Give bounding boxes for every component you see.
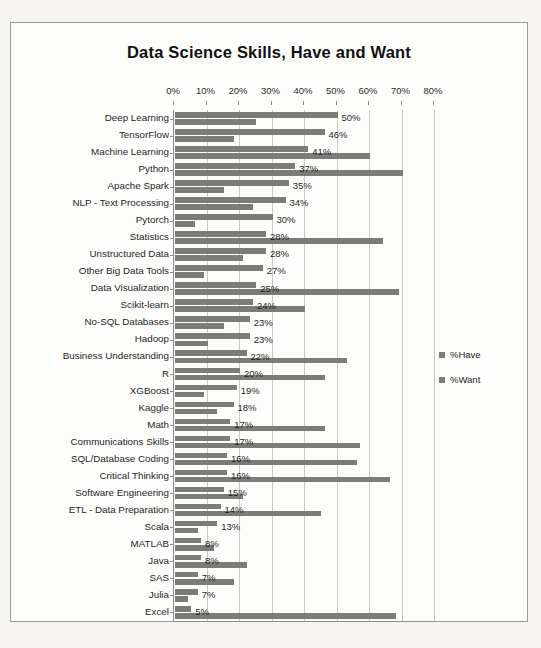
bar-want	[175, 129, 325, 135]
y-axis-tick-mark	[170, 221, 174, 222]
plot-area: Deep Learning50%TensorFlow46%Machine Lea…	[173, 110, 433, 621]
bar-want	[175, 299, 253, 305]
bar-want	[175, 453, 227, 459]
category-label: Machine Learning	[91, 146, 169, 158]
category-label: TensorFlow	[119, 129, 169, 141]
y-axis-tick-mark	[170, 493, 174, 494]
bar-value-label: 19%	[241, 385, 260, 396]
chart-category-row: Scikit-learn24%	[174, 297, 433, 314]
y-axis-tick-mark	[170, 391, 174, 392]
bar-value-label: 7%	[202, 589, 216, 600]
bar-have	[175, 272, 204, 278]
x-axis-tick-labels: 0%10%20%30%40%50%60%70%80%	[173, 85, 433, 101]
bar-have	[175, 170, 403, 176]
category-label: Math	[147, 419, 169, 431]
x-axis-tick-mark	[433, 101, 434, 105]
bar-value-label: 8%	[205, 538, 219, 549]
bar-value-label: 16%	[231, 453, 250, 464]
chart-category-row: SAS7%	[174, 570, 433, 587]
bar-value-label: 17%	[234, 419, 253, 430]
category-label: Critical Thinking	[99, 470, 169, 482]
y-axis-tick-mark	[170, 170, 174, 171]
legend-label: %Want	[450, 374, 480, 385]
legend-swatch-icon	[439, 352, 445, 358]
bar-want	[175, 333, 250, 339]
category-label: SQL/Database Coding	[71, 453, 169, 465]
bar-want	[175, 538, 201, 544]
x-axis-tick-label: 70%	[391, 85, 410, 96]
y-axis-tick-mark	[170, 289, 174, 290]
chart-category-row: Scala13%	[174, 519, 433, 536]
category-label: Kaggle	[138, 402, 169, 414]
chart-category-row: Software Engineering15%	[174, 485, 433, 502]
y-axis-tick-mark	[170, 527, 174, 528]
bar-have	[175, 460, 357, 466]
bar-value-label: 28%	[270, 231, 289, 242]
y-axis-tick-mark	[170, 272, 174, 273]
chart-category-row: Excel5%	[174, 604, 433, 621]
bar-value-label: 8%	[205, 555, 219, 566]
category-label: Unstructured Data	[90, 248, 170, 260]
bar-value-label: 22%	[251, 351, 270, 362]
y-axis-tick-mark	[170, 255, 174, 256]
x-axis-tick-mark	[238, 101, 239, 105]
category-label: Hadoop	[135, 333, 169, 345]
y-axis-tick-mark	[170, 459, 174, 460]
chart-category-row: Machine Learning41%	[174, 144, 433, 161]
bar-have	[175, 306, 305, 312]
bar-want	[175, 350, 247, 356]
x-axis-tick-label: 60%	[358, 85, 377, 96]
y-axis-tick-mark	[170, 153, 174, 154]
category-label: MATLAB	[131, 538, 169, 550]
chart-legend: %Have%Want	[439, 349, 513, 399]
chart-category-row: Hadoop23%	[174, 331, 433, 348]
y-axis-tick-mark	[170, 425, 174, 426]
bar-value-label: 34%	[290, 197, 309, 208]
bar-value-label: 18%	[238, 402, 257, 413]
category-label: Other Big Data Tools	[79, 265, 169, 277]
category-label: ETL - Data Preparation	[69, 504, 169, 516]
x-axis-line	[173, 621, 434, 622]
chart-category-row: ETL - Data Preparation14%	[174, 502, 433, 519]
bar-want	[175, 385, 237, 391]
chart-category-row: Communications Skills17%	[174, 434, 433, 451]
chart-category-row: MATLAB8%	[174, 536, 433, 553]
bar-want	[175, 180, 289, 186]
bar-value-label: 25%	[260, 283, 279, 294]
category-label: SAS	[149, 572, 169, 584]
category-label: XGBoost	[130, 385, 169, 397]
bar-value-label: 23%	[254, 334, 273, 345]
x-axis-tick-label: 80%	[423, 85, 442, 96]
x-axis-tick-label: 10%	[196, 85, 215, 96]
y-axis-tick-mark	[170, 238, 174, 239]
chart-category-row: Statistics28%	[174, 229, 433, 246]
bar-have	[175, 341, 208, 347]
chart-category-row: Julia7%	[174, 587, 433, 604]
category-label: Deep Learning	[105, 112, 169, 124]
bar-value-label: 15%	[228, 487, 247, 498]
bar-have	[175, 221, 195, 227]
category-label: Apache Spark	[107, 180, 169, 192]
category-label: NLP - Text Processing	[72, 197, 169, 209]
y-axis-tick-mark	[170, 442, 174, 443]
y-axis-tick-mark	[170, 357, 174, 358]
chart-category-row: Pytorch30%	[174, 212, 433, 229]
chart-category-row: XGBoost19%	[174, 383, 433, 400]
y-axis-tick-mark	[170, 510, 174, 511]
bar-want	[175, 316, 250, 322]
bar-want	[175, 470, 227, 476]
bar-have	[175, 289, 399, 295]
category-label: Data Visualization	[91, 282, 169, 294]
bar-want	[175, 197, 286, 203]
bar-value-label: 17%	[234, 436, 253, 447]
chart-container: Data Science Skills, Have and Want 0%10%…	[10, 22, 528, 622]
x-axis-tick-mark	[173, 101, 174, 105]
chart-category-row: Python37%	[174, 161, 433, 178]
legend-swatch-icon	[439, 377, 445, 383]
bar-have	[175, 511, 321, 517]
legend-label: %Have	[450, 349, 481, 360]
category-label: Python	[138, 163, 169, 175]
bar-want	[175, 146, 308, 152]
bar-want	[175, 487, 224, 493]
y-axis-tick-mark	[170, 561, 174, 562]
